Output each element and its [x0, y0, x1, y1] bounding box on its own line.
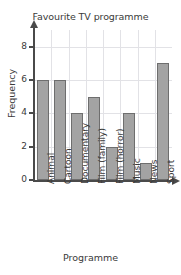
chart-title: Favourite TV programme [0, 11, 181, 22]
x-axis-title: Programme [0, 252, 181, 263]
x-tick-label: Sport [167, 160, 176, 184]
x-tick-label: Cartoon [64, 148, 73, 184]
x-tick-label: News [150, 160, 159, 184]
x-tick-label: Music [133, 158, 142, 184]
y-tick-label: 0 [1, 175, 27, 184]
bar-chart-figure: Favourite TV programme 02468 AnimalCarto… [0, 0, 181, 275]
y-tick-mark [29, 146, 34, 148]
x-tick-label: Documentary [81, 123, 90, 184]
y-tick-mark [29, 79, 34, 81]
y-tick-mark [29, 46, 34, 48]
x-tick-label: Animal [47, 153, 56, 184]
y-axis-line [33, 26, 35, 181]
x-tick-label: Film (family) [98, 128, 107, 184]
y-tick-mark [29, 179, 34, 181]
y-axis-title: Frequency [6, 54, 17, 134]
y-tick-label: 2 [1, 142, 27, 151]
y-tick-mark [29, 112, 34, 114]
x-axis-tick-labels: AnimalCartoonDocumentaryFilm (family)Fil… [34, 182, 172, 252]
y-axis-arrow-icon [30, 20, 38, 28]
x-tick-label: Film (horror) [116, 128, 125, 184]
y-axis-tick-labels: 02468 [0, 0, 27, 275]
y-tick-label: 8 [1, 42, 27, 51]
